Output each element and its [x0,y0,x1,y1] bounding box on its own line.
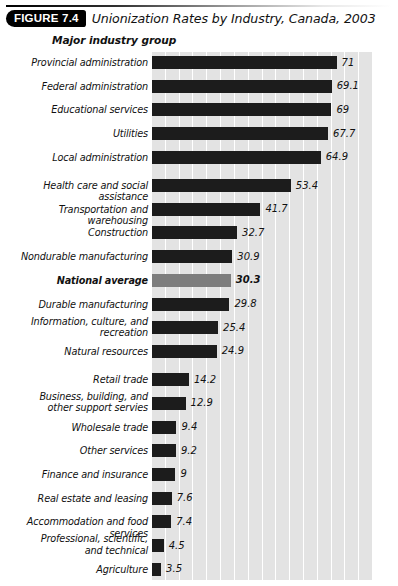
bar-value-label: 67.7 [333,128,355,140]
figure-title-row: FIGURE 7.4 Unionization Rates by Industr… [6,9,376,27]
bar [152,563,161,576]
bar-row-label: Retail trade [2,374,148,385]
bar [152,127,328,140]
bar-row: Finance and insurance9 [0,468,398,481]
bar [152,250,232,263]
bar-value-label: 25.4 [223,322,245,334]
bar [152,373,189,386]
bar-row-label: Professional, scientific, and technical [2,533,148,555]
bar [152,421,176,434]
bar [152,203,260,216]
bar-row-label: Utilities [2,128,148,139]
bar-row-label: Federal administration [2,81,148,92]
bar-value-label: 9.2 [181,445,197,457]
bar-value-label: 4.5 [169,540,185,552]
bar-row: Utilities67.7 [0,127,398,140]
bar-row: Educational services69 [0,103,398,116]
bar [152,179,291,192]
top-divider-rule [6,5,392,7]
bar-row-label: Construction [2,227,148,238]
bar-row: National average30.3 [0,274,398,287]
bar [152,226,237,239]
bar-row-label: Transportation and warehousing [2,204,148,226]
bar [152,80,332,93]
bar-value-label: 41.7 [265,203,287,215]
bar-value-label: 30.3 [236,274,261,286]
figure-title: Unionization Rates by Industry, Canada, … [92,11,376,26]
bar-value-label: 53.4 [296,180,318,192]
bar [152,492,172,505]
bar [152,515,171,528]
bar-row-label: Finance and insurance [2,469,148,480]
bar-row-label: Business, building, and other support se… [2,391,148,413]
bar-row-label: Information, culture, and recreation [2,316,148,338]
bar-row-label: Other services [2,445,148,456]
bar-row: Professional, scientific, and technical4… [0,539,398,552]
bar-value-label: 9 [180,468,186,480]
bar-chart: Provincial administration71Federal admin… [0,52,398,586]
bar-row: Construction32.7 [0,226,398,239]
bar-row: Accommodation and food services7.4 [0,515,398,528]
bar-row: Real estate and leasing7.6 [0,492,398,505]
bar-value-label: 3.5 [166,563,182,575]
bar-row-label: Natural resources [2,346,148,357]
axis-heading: Major industry group [52,34,176,46]
bar-row-label: Health care and social assistance [2,180,148,202]
bar-value-label: 64.9 [326,151,348,163]
bar [152,298,229,311]
bar-value-label: 71 [342,57,355,69]
bar-row-label: Wholesale trade [2,422,148,433]
bar-value-label: 30.9 [237,251,259,263]
bar-value-label: 14.2 [194,374,216,386]
bar-value-label: 69.1 [337,80,359,92]
bar-row-label: Durable manufacturing [2,299,148,310]
bar-row: Health care and social assistance53.4 [0,179,398,192]
bar-row-label: Real estate and leasing [2,493,148,504]
bar-value-label: 7.6 [177,492,193,504]
bar-row: Wholesale trade9.4 [0,421,398,434]
bar-row: Business, building, and other support se… [0,397,398,410]
bar-row-label: Provincial administration [2,57,148,68]
bar-value-label: 9.4 [181,421,197,433]
bar-row-label: Agriculture [2,564,148,575]
bar [152,321,218,334]
bar-row-label: National average [2,275,148,286]
bar [152,345,217,358]
bar-row: Retail trade14.2 [0,373,398,386]
bar-row: Provincial administration71 [0,56,398,69]
bar-value-label: 32.7 [242,227,264,239]
bar-value-label: 24.9 [222,345,244,357]
bar [152,468,175,481]
bar-value-label: 29.8 [234,298,256,310]
bar [152,539,164,552]
bar-row: Agriculture3.5 [0,563,398,576]
bar-row: Other services9.2 [0,444,398,457]
bar [152,397,186,410]
bar-row-label: Educational services [2,104,148,115]
bar-row: Local administration64.9 [0,151,398,164]
bar-row: Natural resources24.9 [0,345,398,358]
bar-value-label: 69 [336,104,349,116]
figure-number-badge: FIGURE 7.4 [6,10,86,27]
bar-value-label: 12.9 [191,397,213,409]
bar-row-label: Local administration [2,152,148,163]
bar-row: Information, culture, and recreation25.4 [0,321,398,334]
bar [152,151,321,164]
bar [152,103,331,116]
bar-row: Durable manufacturing29.8 [0,298,398,311]
bar [152,444,176,457]
bar-row: Transportation and warehousing41.7 [0,203,398,216]
bar-row: Nondurable manufacturing30.9 [0,250,398,263]
bar-row: Federal administration69.1 [0,80,398,93]
bar [152,56,337,69]
bar-value-label: 7.4 [176,516,192,528]
bar [152,274,231,287]
bar-row-label: Nondurable manufacturing [2,251,148,262]
